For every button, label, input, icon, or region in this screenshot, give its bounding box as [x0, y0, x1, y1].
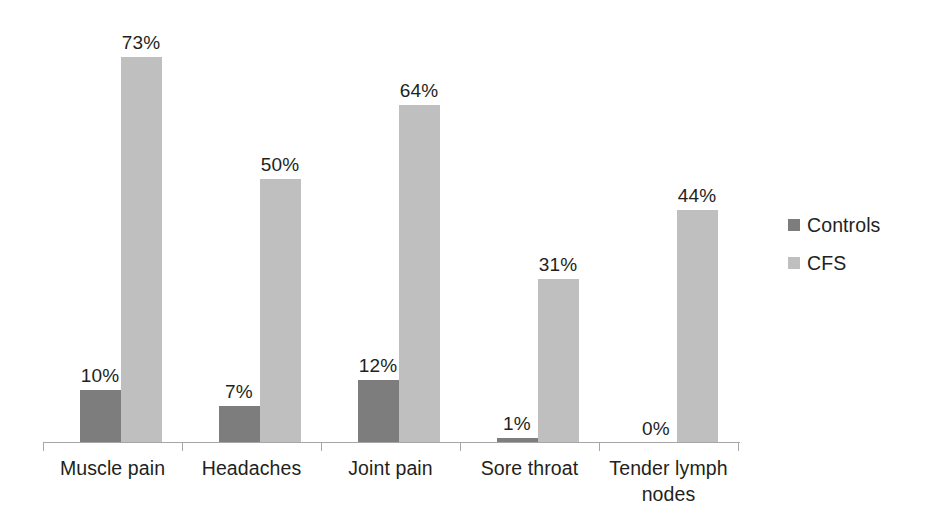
bar-cfs[interactable]: [538, 279, 579, 443]
legend-label-controls: Controls: [807, 214, 880, 236]
legend-item-controls[interactable]: Controls: [788, 206, 880, 244]
legend-swatch-controls: [788, 219, 800, 231]
bar-value-label: 31%: [523, 254, 593, 276]
bar-group: 12%64%: [321, 0, 460, 443]
axis-tick: [321, 443, 322, 451]
bar-group: 7%50%: [182, 0, 321, 443]
axis-tick: [43, 443, 44, 451]
bar-controls[interactable]: [219, 406, 260, 443]
category-label: Tender lymph nodes: [584, 455, 754, 507]
bar-value-label: 64%: [384, 80, 454, 102]
legend-swatch-cfs: [788, 257, 800, 269]
bar-value-label: 44%: [662, 185, 732, 207]
axis-tick: [182, 443, 183, 451]
bar-controls[interactable]: [80, 390, 121, 443]
plot-area: 10%73%7%50%12%64%1%31%0%44%: [43, 0, 740, 443]
bar-group: 10%73%: [43, 0, 182, 443]
bar-controls[interactable]: [358, 380, 399, 443]
bar-value-label: 73%: [106, 32, 176, 54]
axis-tick: [599, 443, 600, 451]
axis-tick: [460, 443, 461, 451]
axis-tick: [738, 443, 739, 451]
legend-item-cfs[interactable]: CFS: [788, 244, 880, 282]
bar-cfs[interactable]: [121, 57, 162, 443]
bar-chart: 10%73%7%50%12%64%1%31%0%44% Muscle painH…: [0, 0, 929, 512]
bar-cfs[interactable]: [399, 105, 440, 443]
legend-label-cfs: CFS: [807, 252, 846, 274]
bar-group: 1%31%: [460, 0, 599, 443]
bar-cfs[interactable]: [677, 210, 718, 443]
bar-value-label: 50%: [245, 154, 315, 176]
chart-legend: Controls CFS: [788, 206, 880, 282]
bar-group: 0%44%: [599, 0, 738, 443]
x-axis-line: [43, 442, 740, 443]
bar-cfs[interactable]: [260, 179, 301, 443]
